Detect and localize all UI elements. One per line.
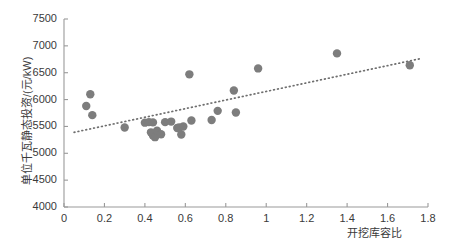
x-tick-label: 0.2: [84, 212, 124, 224]
data-point: [230, 86, 238, 94]
tick-marks: [64, 19, 428, 207]
data-point: [333, 49, 341, 57]
data-point: [207, 116, 215, 124]
x-tick-label: 1: [246, 212, 286, 224]
x-tick-label: 0.6: [165, 212, 205, 224]
x-tick-label: 0.4: [125, 212, 165, 224]
axis-lines: [64, 19, 428, 207]
x-tick-label: 1.4: [327, 212, 367, 224]
y-tick-label: 4000: [5, 200, 57, 212]
trend-line-path: [74, 59, 420, 133]
data-point: [213, 107, 221, 115]
data-point: [149, 118, 157, 126]
data-point: [86, 90, 94, 98]
x-tick-label: 1.2: [287, 212, 327, 224]
plot-area: [0, 0, 452, 248]
y-tick-label: 7500: [5, 12, 57, 24]
data-point: [185, 70, 193, 78]
data-point: [120, 123, 128, 131]
data-point: [254, 64, 262, 72]
data-point: [177, 130, 185, 138]
trend-line: [74, 59, 420, 133]
y-tick-label: 7000: [5, 39, 57, 51]
x-tick-label: 1.6: [368, 212, 408, 224]
data-point: [157, 130, 165, 138]
data-point: [88, 111, 96, 119]
data-point: [406, 61, 414, 69]
data-point: [82, 102, 90, 110]
x-tick-label: 1.8: [408, 212, 448, 224]
data-point: [167, 117, 175, 125]
x-tick-label: 0.8: [206, 212, 246, 224]
data-points: [82, 49, 414, 141]
data-point: [232, 108, 240, 116]
data-point: [179, 122, 187, 130]
scatter-chart: 40004500500055006000650070007500 00.20.4…: [0, 0, 452, 248]
data-point: [187, 116, 195, 124]
y-axis-title: 单位千瓦静态投资/(元/kW): [18, 57, 34, 185]
x-axis-title: 开挖库容比: [347, 224, 402, 240]
x-tick-label: 0: [44, 212, 84, 224]
